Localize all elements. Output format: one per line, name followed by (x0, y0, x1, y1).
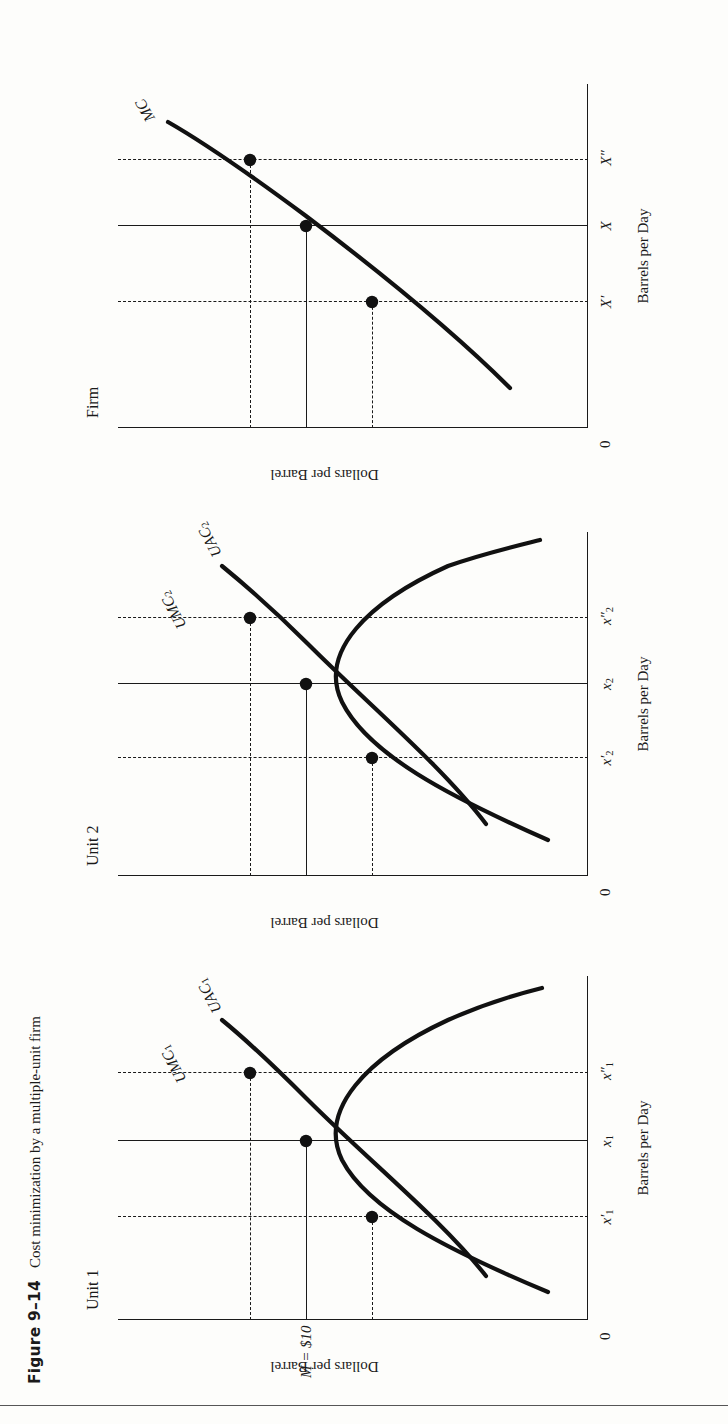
tick-X: X (598, 221, 615, 230)
tick-row-unit-1: x′1 x1 x″1 (598, 976, 618, 1320)
panels-row: Unit 1 M = $10 (78, 34, 688, 1384)
origin-label-unit-1: 0 (597, 1333, 614, 1341)
plot-area-firm: MC 0 X′ X X″ Dollars per Barrel Barrels … (118, 84, 588, 428)
point-X-prime (366, 296, 378, 308)
x-axis-label-unit-1: Barrels per Day (635, 976, 652, 1320)
curve-uac-1 (336, 988, 548, 1292)
panel-title-unit-1: Unit 1 (84, 1270, 102, 1310)
tick-x-prime-2: x′2 (598, 750, 615, 765)
figure-caption: Figure 9–14 Cost minimization by a multi… (26, 1016, 44, 1384)
tick-x-1: x1 (598, 1135, 615, 1147)
point-X-dprime (244, 154, 256, 166)
point-x-2 (300, 678, 312, 690)
tick-row-firm: X′ X X″ (598, 84, 618, 428)
tick-x-2: x2 (598, 678, 615, 690)
panel-unit-2: Unit 2 (78, 502, 688, 932)
point-x-prime-2 (366, 752, 378, 764)
plot-area-unit-1: M = $10 UMC1 UAC1 (118, 976, 588, 1320)
plot-area-unit-2: UMC2 UAC2 0 x′2 x2 x″2 Dollars per Barre… (118, 532, 588, 876)
curve-umc-2 (222, 566, 486, 824)
point-x-dprime-2 (244, 612, 256, 624)
tick-X-dprime: X″ (598, 150, 615, 165)
curves-unit-2 (118, 532, 588, 876)
tick-row-unit-2: x′2 x2 x″2 (598, 532, 618, 876)
panel-title-firm: Firm (84, 387, 102, 418)
curves-firm (118, 84, 588, 428)
tick-x-prime-1: x′1 (598, 1209, 615, 1224)
point-x-1 (300, 1135, 312, 1147)
tick-x-dprime-2: x″2 (598, 607, 615, 625)
point-x-prime-1 (366, 1211, 378, 1223)
curves-unit-1 (118, 976, 588, 1320)
panel-firm: Firm (78, 54, 688, 484)
figure-page: Figure 9–14 Cost minimization by a multi… (0, 0, 728, 1424)
tick-X-prime: X′ (598, 296, 615, 308)
tick-x-dprime-1: x″1 (598, 1062, 615, 1080)
x-axis-label-firm: Barrels per Day (635, 84, 652, 428)
y-axis-label-unit-1: Dollars per Barrel (175, 1358, 475, 1375)
curve-uac-2 (336, 540, 548, 840)
x-axis-label-unit-2: Barrels per Day (635, 532, 652, 876)
origin-label-unit-2: 0 (597, 889, 614, 897)
curve-mc-firm (168, 122, 510, 388)
y-axis-label-unit-2: Dollars per Barrel (175, 914, 475, 931)
panel-unit-1: Unit 1 M = $10 (78, 946, 688, 1376)
figure-caption-text: Cost minimization by a multiple-unit fir… (27, 1016, 44, 1268)
figure-number: Figure 9–14 (26, 1280, 44, 1384)
panel-title-unit-2: Unit 2 (84, 826, 102, 866)
point-x-dprime-1 (244, 1067, 256, 1079)
page-edge-rule (0, 1405, 728, 1406)
point-X (300, 220, 312, 232)
rotated-figure-container: Figure 9–14 Cost minimization by a multi… (0, 0, 728, 1424)
y-axis-label-firm: Dollars per Barrel (175, 466, 475, 483)
curve-umc-1 (222, 1020, 486, 1276)
origin-label-firm: 0 (597, 441, 614, 449)
